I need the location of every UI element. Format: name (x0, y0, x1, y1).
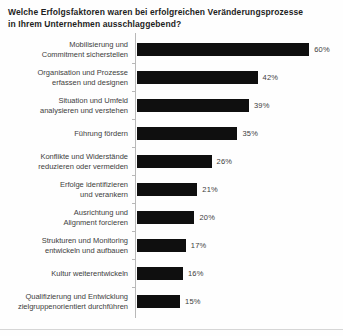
category-label: Führung fördern (0, 129, 135, 139)
bar-chart: Mobilisierung und Commitment sicherstell… (0, 36, 343, 316)
value-label: 21% (202, 185, 218, 194)
chart-title: Welche Erfolgsfaktoren waren bei erfolgr… (0, 0, 343, 31)
chart-row: Kultur weiterentwickeln 16% (0, 260, 343, 288)
category-label: Qualifizierung und Entwicklung zielgrupp… (0, 292, 135, 312)
value-label: 20% (199, 213, 215, 222)
category-label: Ausrichtung und Alignment forcieren (0, 208, 135, 228)
survey-chart-page: Welche Erfolgsfaktoren waren bei erfolgr… (0, 0, 343, 336)
bar (137, 211, 194, 224)
bar-cell: 39% (135, 92, 343, 120)
chart-row: Konflikte und Widerstände reduzieren ode… (0, 148, 343, 176)
bar-cell: 20% (135, 204, 343, 232)
chart-row: Mobilisierung und Commitment sicherstell… (0, 36, 343, 64)
bar (137, 239, 186, 252)
bar-cell: 17% (135, 232, 343, 260)
value-label: 15% (185, 297, 201, 306)
chart-rows: Mobilisierung und Commitment sicherstell… (0, 36, 343, 316)
bar-cell: 16% (135, 260, 343, 288)
category-label: Mobilisierung und Commitment sicherstell… (0, 40, 135, 60)
bar (137, 71, 258, 84)
bar (137, 183, 197, 196)
chart-row: Qualifizierung und Entwicklung zielgrupp… (0, 288, 343, 316)
bar (137, 155, 212, 168)
value-label: 39% (254, 101, 270, 110)
bar-cell: 21% (135, 176, 343, 204)
category-label: Organisation und Prozesse erfassen und d… (0, 68, 135, 88)
category-label: Erfolge identifizieren und verankern (0, 180, 135, 200)
bar (137, 267, 183, 280)
category-label: Strukturen und Monitoring entwickeln und… (0, 236, 135, 256)
value-label: 16% (188, 269, 204, 278)
bar (137, 127, 237, 140)
chart-row: Organisation und Prozesse erfassen und d… (0, 64, 343, 92)
bar (137, 99, 249, 112)
bar-cell: 15% (135, 288, 343, 316)
value-label: 42% (263, 73, 279, 82)
bar (137, 43, 309, 56)
bottom-divider (0, 329, 343, 330)
category-label: Kultur weiterentwickeln (0, 269, 135, 279)
chart-row: Strukturen und Monitoring entwickeln und… (0, 232, 343, 260)
bar (137, 295, 180, 308)
bar-cell: 35% (135, 120, 343, 148)
value-label: 35% (242, 129, 258, 138)
value-label: 60% (314, 45, 330, 54)
value-label: 17% (191, 241, 207, 250)
category-label: Konflikte und Widerstände reduzieren ode… (0, 152, 135, 172)
value-label: 26% (217, 157, 233, 166)
bar-cell: 42% (135, 64, 343, 92)
bar-cell: 26% (135, 148, 343, 176)
chart-row: Situation und Umfeld analysieren und ver… (0, 92, 343, 120)
chart-row: Erfolge identifizieren und verankern 21% (0, 176, 343, 204)
bar-cell: 60% (135, 36, 343, 64)
chart-row: Ausrichtung und Alignment forcieren 20% (0, 204, 343, 232)
chart-row: Führung fördern 35% (0, 120, 343, 148)
category-label: Situation und Umfeld analysieren und ver… (0, 96, 135, 116)
